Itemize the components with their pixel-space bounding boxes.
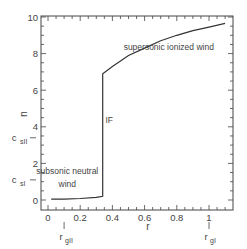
x-tick-label: 0 — [45, 212, 50, 223]
annotation-3: wind — [58, 179, 77, 189]
annotation-0: supersonic ionized wind — [124, 42, 215, 52]
x-extra-label-sub-1: gI — [210, 237, 216, 245]
x-tick-label: 0.8 — [170, 212, 183, 223]
x-extra-label-1: r — [204, 231, 207, 242]
y-extra-label-0: c — [12, 132, 17, 143]
x-tick-label: 0.2 — [74, 212, 87, 223]
y-extra-label-1: c — [12, 174, 17, 185]
x-tick-label: 1 — [206, 212, 211, 223]
chart: 00.20.40.60.810246810 r u supersonic ion… — [0, 0, 247, 249]
y-extra-label-sub-1: sI — [20, 180, 26, 187]
y-tick-label: 10 — [27, 12, 38, 23]
annotation-1: IF — [105, 115, 113, 125]
y-tick-label: 6 — [33, 85, 38, 96]
y-tick-label: 4 — [33, 121, 38, 132]
annotation-2: subsonic neutral — [36, 166, 98, 176]
x-tick-label: 0.4 — [106, 212, 119, 223]
x-extra-label-0: r — [60, 231, 63, 242]
y-tick-label: 8 — [33, 48, 38, 59]
x-extra-label-sub-0: gII — [65, 237, 73, 245]
y-tick-label: 0 — [33, 195, 38, 206]
y-extra-label-sub-0: sII — [20, 138, 27, 145]
y-axis-label: u — [19, 111, 30, 117]
